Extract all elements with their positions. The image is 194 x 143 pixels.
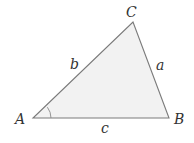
vertex-label-a: A bbox=[13, 111, 25, 127]
side-label-c: c bbox=[101, 120, 109, 136]
triangle-shape bbox=[33, 22, 169, 118]
vertex-label-b: B bbox=[173, 111, 184, 127]
side-label-a: a bbox=[156, 57, 164, 73]
side-label-b: b bbox=[70, 56, 79, 72]
vertex-label-c: C bbox=[126, 4, 137, 20]
triangle-diagram: A B C b a c bbox=[0, 0, 194, 143]
